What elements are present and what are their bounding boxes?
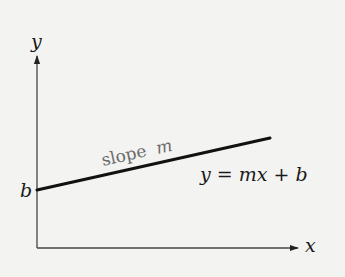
intercept-label: b: [20, 179, 32, 201]
equation-plus: +: [267, 163, 295, 185]
equation-y: y: [199, 163, 211, 185]
slope-variable: m: [154, 135, 174, 158]
y-axis-label: y: [30, 30, 42, 52]
equation-mx: mx: [239, 163, 268, 185]
svg-text:slope m: slope m: [100, 135, 175, 170]
diagram-canvas: y x b slope m y = mx + b: [0, 0, 345, 277]
equation-label: y = mx + b: [199, 163, 308, 185]
slope-label: slope m: [100, 135, 175, 170]
equation-b: b: [295, 163, 307, 185]
diagram-svg: y x b slope m y = mx + b: [0, 0, 345, 277]
x-axis-label: x: [305, 234, 316, 256]
equation-equals: =: [211, 163, 239, 185]
